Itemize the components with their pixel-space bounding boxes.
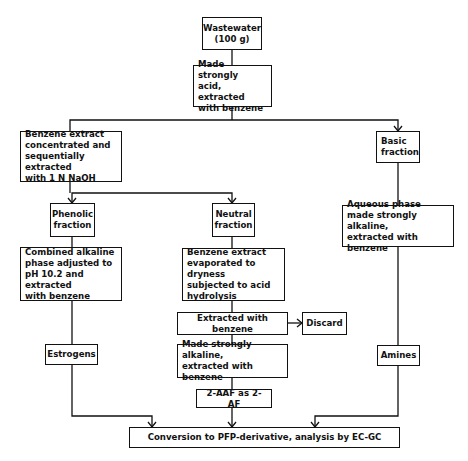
node-benzene-evaporated: Benzene extract evaporated to dryness su… [182,248,285,301]
node-benzene-extract: Benzene extract concentrated and sequent… [20,131,122,182]
node-wastewater: Wastewater (100 g) [202,17,262,50]
node-neutral-fraction: Neutral fraction [212,203,255,237]
node-discard: Discard [302,312,347,335]
node-phenolic-fraction: Phenolic fraction [50,203,95,237]
node-acidify: Made strongly acid, extracted with benze… [193,65,272,107]
node-aqueous-phase: Aqueous phase made strongly alkaline, ex… [342,205,454,247]
node-amines: Amines [377,345,420,366]
node-extracted-benzene: Extracted with benzene [177,312,288,335]
node-combined-alkaline: Combined alkaline phase adjusted to pH 1… [20,247,122,301]
node-made-alkaline: Made strongly alkaline, extracted with b… [177,344,288,378]
node-conversion: Conversion to PFP-derivative, analysis b… [129,427,400,448]
node-basic-fraction: Basic fraction [376,131,420,163]
node-estrogens: Estrogens [45,344,98,365]
node-2aaf: 2-AAF as 2-AF [196,389,272,408]
